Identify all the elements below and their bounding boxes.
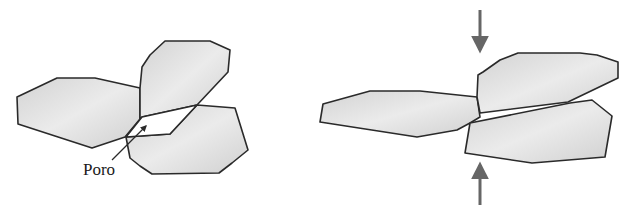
right-panel [320,10,618,205]
compaction-diagram [0,0,640,215]
left-grain [17,78,140,148]
pore-label: Poro [83,160,115,180]
left-panel [17,41,248,174]
left-flat-grain [320,91,480,137]
